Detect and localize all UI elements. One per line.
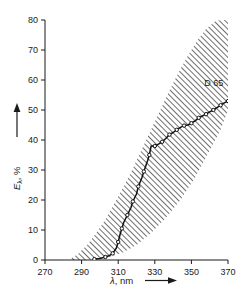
data-point — [190, 122, 193, 125]
data-point — [219, 104, 222, 107]
y-tick-label: 70 — [28, 45, 38, 55]
y-tick-label: 30 — [28, 165, 38, 175]
y-tick-label: 0 — [33, 255, 38, 265]
y-axis-title: Eλ, % — [11, 166, 23, 190]
y-axis-arrow-head — [14, 103, 21, 112]
y-tick-label: 10 — [28, 225, 38, 235]
data-point — [160, 140, 163, 143]
data-point — [226, 99, 229, 102]
x-tick-label: 370 — [220, 267, 235, 277]
x-tick-label: 290 — [74, 267, 89, 277]
y-tick-label: 80 — [28, 15, 38, 25]
x-tick-label: 330 — [147, 267, 162, 277]
y-axis-title-group: Eλ, % — [11, 103, 23, 190]
spectral-irradiance-chart: 01020304050607080 270290310330350370 D 6… — [0, 0, 250, 292]
data-point — [131, 200, 134, 203]
x-axis-ticks — [45, 260, 228, 264]
data-point — [120, 227, 123, 230]
data-point — [111, 252, 114, 255]
y-axis-ticks — [41, 20, 45, 260]
data-point — [168, 133, 171, 136]
data-point — [142, 170, 145, 173]
data-point — [204, 113, 207, 116]
x-tick-label: 350 — [184, 267, 199, 277]
x-axis-title: λ, nm — [109, 275, 133, 286]
data-point — [148, 153, 151, 156]
data-point — [182, 124, 185, 127]
data-point — [175, 128, 178, 131]
x-axis-arrow-head — [168, 277, 177, 284]
tolerance-band — [69, 20, 228, 260]
data-point — [212, 108, 215, 111]
chart-figure: 01020304050607080 270290310330350370 D 6… — [0, 0, 250, 292]
data-point — [104, 255, 107, 258]
series-annotation-d65: D 65 — [204, 78, 223, 88]
data-point — [137, 185, 140, 188]
x-tick-label: 270 — [37, 267, 52, 277]
y-tick-label: 60 — [28, 75, 38, 85]
y-tick-label: 20 — [28, 195, 38, 205]
data-point — [126, 213, 129, 216]
y-tick-label: 40 — [28, 135, 38, 145]
x-axis-tick-labels: 270290310330350370 — [37, 267, 235, 277]
data-point — [197, 116, 200, 119]
data-point — [153, 144, 156, 147]
y-tick-label: 50 — [28, 105, 38, 115]
x-axis-title-group: λ, nm — [109, 275, 177, 286]
y-axis-tick-labels: 01020304050607080 — [28, 15, 38, 265]
data-point — [117, 240, 120, 243]
